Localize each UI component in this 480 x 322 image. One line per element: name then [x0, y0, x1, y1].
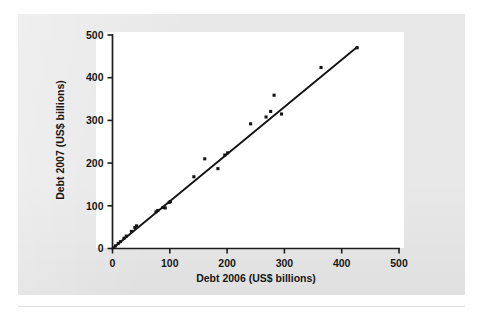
data-point: [320, 66, 323, 69]
plot-area-background: [96, 32, 404, 248]
figure-page: 0100200300400500 0100200300400500 Debt 2…: [0, 0, 480, 322]
y-tick-label: 400: [86, 71, 104, 83]
x-axis-ticks: 0100200300400500: [110, 249, 408, 269]
data-point: [226, 151, 229, 154]
data-point: [164, 206, 167, 209]
chart-canvas: 0100200300400500 0100200300400500 Debt 2…: [18, 14, 465, 295]
x-axis-title: Debt 2006 (US$ billions): [196, 272, 316, 284]
data-point: [203, 157, 206, 160]
data-point: [223, 153, 226, 156]
data-point: [156, 209, 159, 212]
scatter-chart-figure: 0100200300400500 0100200300400500 Debt 2…: [18, 14, 465, 295]
y-tick-label: 300: [86, 114, 104, 126]
y-tick-label: 500: [86, 29, 104, 41]
data-point: [216, 167, 219, 170]
data-point: [130, 230, 133, 233]
data-point: [269, 110, 272, 113]
y-tick-label: 100: [86, 200, 104, 212]
data-point: [280, 112, 283, 115]
data-point: [114, 244, 117, 247]
page-divider-rule: [18, 306, 465, 307]
y-axis-title: Debt 2007 (US$ billions): [54, 80, 66, 200]
data-point: [119, 240, 122, 243]
data-point: [169, 200, 172, 203]
data-point: [249, 122, 252, 125]
y-tick-label: 200: [86, 157, 104, 169]
data-point: [265, 115, 268, 118]
x-tick-label: 100: [161, 257, 179, 269]
data-point: [125, 235, 128, 238]
x-tick-label: 400: [333, 257, 351, 269]
y-tick-label: 0: [98, 242, 104, 254]
data-point: [192, 175, 195, 178]
x-tick-label: 300: [276, 257, 294, 269]
data-point: [273, 94, 276, 97]
x-tick-label: 0: [110, 257, 116, 269]
x-tick-label: 200: [218, 257, 236, 269]
data-point: [356, 46, 359, 49]
x-tick-label: 500: [390, 257, 408, 269]
data-point: [135, 224, 138, 227]
